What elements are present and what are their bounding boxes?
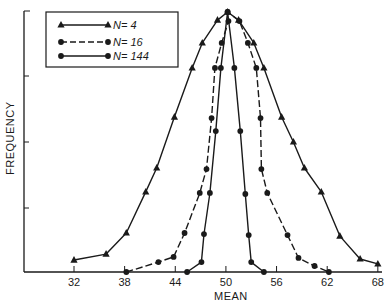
circle-marker: [207, 190, 213, 196]
circle-marker: [245, 40, 251, 46]
x-tick-label: 56: [270, 276, 282, 288]
circle-marker: [326, 269, 332, 275]
circle-marker: [212, 65, 218, 71]
x-tick-label: 32: [68, 276, 80, 288]
circle-marker: [156, 259, 162, 265]
triangle-marker: [142, 188, 149, 195]
triangle-marker: [171, 113, 178, 120]
circle-marker: [242, 191, 248, 197]
circle-marker: [264, 190, 270, 196]
x-tick-label: 50: [220, 276, 232, 288]
legend-box: [46, 12, 178, 67]
frequency-vs-mean-chart: 32384450566268 N= 4N= 16N= 144 MEAN FREQ…: [0, 0, 391, 307]
circle-marker: [218, 65, 224, 71]
circle-marker: [182, 230, 188, 236]
circle-marker: [231, 65, 237, 71]
triangle-marker: [214, 16, 221, 23]
circle-marker: [204, 166, 210, 172]
circle-marker: [237, 18, 243, 24]
circle-marker: [237, 128, 243, 134]
legend-label: N= 144: [113, 50, 149, 62]
circle-marker: [258, 166, 264, 172]
triangle-marker: [260, 64, 267, 71]
x-axis-label: MEAN: [214, 290, 248, 302]
circle-marker: [312, 263, 318, 269]
circle-marker: [105, 39, 111, 45]
x-tick-label: 62: [321, 276, 333, 288]
y-axis-label: FREQUENCY: [4, 101, 16, 175]
circle-marker: [213, 128, 219, 134]
legend-label: N= 16: [113, 36, 144, 48]
triangle-marker: [336, 232, 343, 239]
triangle-marker: [290, 138, 297, 145]
circle-marker: [225, 9, 231, 15]
triangle-marker: [189, 64, 196, 71]
circle-marker: [58, 39, 64, 45]
legend: N= 4N= 16N= 144: [46, 12, 178, 67]
x-tick-label: 44: [169, 276, 181, 288]
triangle-marker: [301, 164, 308, 171]
circle-marker: [261, 269, 267, 275]
circle-marker: [123, 269, 129, 275]
circle-marker: [105, 53, 111, 59]
triangle-marker: [153, 164, 160, 171]
circle-marker: [246, 232, 252, 238]
x-tick-label: 68: [372, 276, 384, 288]
circle-marker: [285, 232, 291, 238]
x-tick-label: 38: [119, 276, 131, 288]
circle-marker: [184, 269, 190, 275]
triangle-marker: [278, 113, 285, 120]
circle-marker: [296, 255, 302, 261]
circle-marker: [197, 190, 203, 196]
triangle-marker: [123, 229, 130, 236]
circle-marker: [253, 65, 259, 71]
legend-label: N= 4: [113, 19, 137, 31]
circle-marker: [209, 115, 215, 121]
series-n144: [184, 9, 267, 275]
circle-marker: [201, 231, 207, 237]
circle-marker: [258, 115, 264, 121]
circle-marker: [248, 259, 254, 265]
circle-marker: [171, 254, 177, 260]
circle-marker: [58, 53, 64, 59]
circle-marker: [199, 259, 205, 265]
